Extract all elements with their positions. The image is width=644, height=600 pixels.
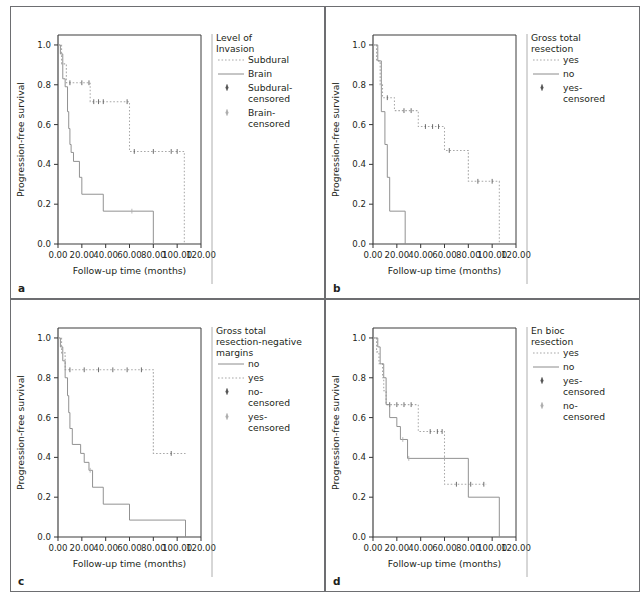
legend-item-label: no- <box>563 400 578 411</box>
legend-item-label: Subdural <box>248 54 289 65</box>
legend-swatch-censor-dot <box>541 404 544 407</box>
x-tick-label: 20.00 <box>385 543 410 553</box>
x-tick-label: 120.00 <box>186 250 216 260</box>
curve-yes <box>58 338 186 453</box>
x-tick-label: 60.00 <box>117 543 142 553</box>
legend-item-label: censored <box>563 411 605 422</box>
y-axis-title: Progression-free survival <box>15 375 26 490</box>
y-tick-label: 0.0 <box>352 532 366 542</box>
x-axis-title: Follow-up time (months) <box>388 558 502 569</box>
curve-no <box>373 338 499 537</box>
legend-swatch-censor-dot <box>226 415 229 418</box>
y-tick-label: 0.4 <box>37 159 51 169</box>
panel-label-a: a <box>18 282 25 294</box>
legend-title: margins <box>216 347 253 358</box>
legend-title: Gross total <box>216 325 266 336</box>
x-tick-label: 40.00 <box>408 543 433 553</box>
y-tick-label: 0.6 <box>352 120 366 130</box>
panel-c: 0.0020.0040.0060.0080.00100.00120.00Foll… <box>10 299 325 592</box>
legend-swatch-censor-dot <box>226 390 229 393</box>
y-tick-label: 0.8 <box>37 80 51 90</box>
y-tick-label: 1.0 <box>37 40 51 50</box>
y-tick-label: 0.2 <box>37 492 51 502</box>
y-tick-label: 0.0 <box>352 239 366 249</box>
y-tick-label: 1.0 <box>352 40 366 50</box>
legend-item-label: no <box>248 358 260 369</box>
x-tick-label: 60.00 <box>432 250 457 260</box>
panel-b-plot: 0.0020.0040.0060.0080.00100.00120.00Foll… <box>326 7 641 300</box>
y-tick-label: 1.0 <box>352 333 366 343</box>
legend-title: Level of <box>216 32 253 43</box>
legend-item-label: censored <box>248 93 290 104</box>
x-tick-label: 40.00 <box>93 543 118 553</box>
legend-item-label: censored <box>248 422 290 433</box>
legend-title: Gross total <box>531 32 581 43</box>
y-tick-label: 0.2 <box>352 492 366 502</box>
legend-item-label: yes <box>248 372 264 383</box>
legend-item-label: no <box>563 68 575 79</box>
panel-label-b: b <box>333 282 341 294</box>
legend-item-label: no <box>563 361 575 372</box>
y-tick-label: 0.2 <box>352 199 366 209</box>
legend-title: Invasion <box>216 43 255 54</box>
legend-item-label: yes- <box>248 411 267 422</box>
y-axis-title: Progression-free survival <box>330 375 341 490</box>
x-tick-label: 120.00 <box>501 250 531 260</box>
figure-root: 0.0020.0040.0060.0080.00100.00120.00Foll… <box>0 0 644 600</box>
y-tick-label: 0.2 <box>37 199 51 209</box>
legend-item-label: yes- <box>563 82 582 93</box>
legend-item-label: Subdural- <box>248 82 292 93</box>
y-tick-label: 0.4 <box>352 159 366 169</box>
panel-grid: 0.0020.0040.0060.0080.00100.00120.00Foll… <box>10 6 640 592</box>
panel-a: 0.0020.0040.0060.0080.00100.00120.00Foll… <box>10 6 325 299</box>
x-tick-label: 20.00 <box>70 250 95 260</box>
y-tick-label: 0.0 <box>37 532 51 542</box>
x-tick-label: 0.00 <box>363 543 382 553</box>
x-axis-title: Follow-up time (months) <box>388 265 502 276</box>
x-tick-label: 20.00 <box>70 543 95 553</box>
legend-title: resection-negative <box>216 336 302 347</box>
legend-title: resection <box>531 336 573 347</box>
legend-item-label: censored <box>563 386 605 397</box>
panel-a-plot: 0.0020.0040.0060.0080.00100.00120.00Foll… <box>11 7 326 300</box>
curve-yes <box>373 45 499 244</box>
panel-c-plot: 0.0020.0040.0060.0080.00100.00120.00Foll… <box>11 300 326 593</box>
y-tick-label: 0.4 <box>352 452 366 462</box>
y-tick-label: 0.6 <box>37 120 51 130</box>
curve-Brain <box>58 45 153 244</box>
legend-item-label: yes <box>563 347 579 358</box>
x-tick-label: 40.00 <box>408 250 433 260</box>
legend-item-label: censored <box>248 118 290 129</box>
legend-swatch-censor-dot <box>541 379 544 382</box>
panel-d: 0.0020.0040.0060.0080.00100.00120.00Foll… <box>325 299 640 592</box>
x-tick-label: 0.00 <box>363 250 382 260</box>
panel-d-plot: 0.0020.0040.0060.0080.00100.00120.00Foll… <box>326 300 641 593</box>
legend-item-label: Brain <box>248 68 272 79</box>
x-tick-label: 20.00 <box>385 250 410 260</box>
legend-item-label: yes- <box>563 375 582 386</box>
y-tick-label: 0.6 <box>37 413 51 423</box>
legend-swatch-censor-dot <box>226 111 229 114</box>
y-tick-label: 0.8 <box>352 373 366 383</box>
curve-Subdural <box>58 45 184 244</box>
curve-no <box>373 45 405 244</box>
x-axis-title: Follow-up time (months) <box>73 558 187 569</box>
y-tick-label: 0.6 <box>352 413 366 423</box>
x-tick-label: 0.00 <box>48 543 67 553</box>
x-tick-label: 40.00 <box>93 250 118 260</box>
legend-swatch-censor-dot <box>541 86 544 89</box>
legend-item-label: no- <box>248 386 263 397</box>
x-tick-label: 60.00 <box>117 250 142 260</box>
legend-item-label: yes <box>563 54 579 65</box>
x-tick-label: 120.00 <box>186 543 216 553</box>
panel-label-d: d <box>333 575 341 587</box>
legend-title: resection <box>531 43 573 54</box>
legend-title: En bioc <box>531 325 565 336</box>
y-tick-label: 0.8 <box>352 80 366 90</box>
x-tick-label: 0.00 <box>48 250 67 260</box>
y-tick-label: 1.0 <box>37 333 51 343</box>
y-tick-label: 0.4 <box>37 452 51 462</box>
legend-item-label: censored <box>563 93 605 104</box>
curve-no <box>58 338 186 537</box>
y-axis-title: Progression-free survival <box>330 82 341 197</box>
